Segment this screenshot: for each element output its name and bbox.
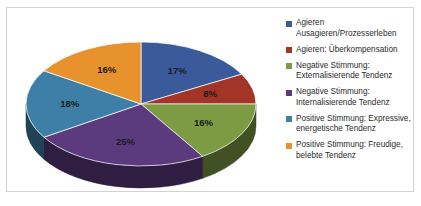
legend-item[interactable]: Negative Stimmung: Internalisierende Ten… — [286, 87, 414, 108]
pie-value-label-3: 25% — [116, 136, 136, 147]
legend-label-3: Negative Stimmung: Internalisierende Ten… — [296, 87, 390, 108]
pie-chart-svg: 17%8%16%25%18%16% — [10, 12, 280, 190]
legend-swatch-0 — [286, 21, 292, 27]
pie-chart-figure: 17%8%16%25%18%16% Agieren Ausagieren/Pro… — [0, 0, 421, 206]
legend-swatch-4 — [286, 116, 292, 122]
legend-label-2: Negative Stimmung: Externalisierende Ten… — [296, 61, 392, 82]
pie-value-label-0: 17% — [168, 65, 188, 76]
pie-value-label-4: 18% — [60, 98, 80, 109]
pie-value-label-2: 16% — [194, 117, 214, 128]
legend-label-4: Positive Stimmung: Expressive, energetis… — [296, 114, 411, 135]
legend-swatch-1 — [286, 47, 292, 53]
legend-swatch-2 — [286, 63, 292, 69]
legend-item[interactable]: Negative Stimmung: Externalisierende Ten… — [286, 61, 414, 82]
legend-item[interactable]: Agieren Ausagieren/Prozesserleben — [286, 18, 414, 39]
legend-item[interactable]: Positive Stimmung: Freudige, belebte Ten… — [286, 140, 414, 161]
legend-label-0: Agieren Ausagieren/Prozesserleben — [296, 18, 397, 39]
legend-label-5: Positive Stimmung: Freudige, belebte Ten… — [296, 140, 403, 161]
pie-value-label-1: 8% — [203, 88, 217, 99]
legend-swatch-3 — [286, 90, 292, 96]
legend-item[interactable]: Positive Stimmung: Expressive, energetis… — [286, 114, 414, 135]
pie-value-label-5: 16% — [97, 64, 117, 75]
chart-legend: Agieren Ausagieren/Prozesserleben Agiere… — [286, 18, 414, 188]
legend-label-1: Agieren: Überkompensation — [296, 45, 398, 56]
legend-item[interactable]: Agieren: Überkompensation — [286, 45, 414, 56]
legend-swatch-5 — [286, 143, 292, 149]
pie-plot-area: 17%8%16%25%18%16% — [10, 12, 280, 190]
